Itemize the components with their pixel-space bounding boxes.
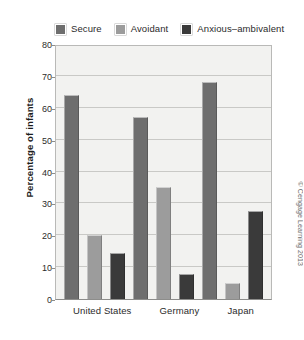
- y-axis-tick-mark: [51, 300, 55, 301]
- legend-label: Anxious–ambivalent: [197, 24, 284, 34]
- bar: [87, 235, 102, 299]
- x-axis-tick-label: Germany: [160, 305, 200, 316]
- legend-label: Avoidant: [131, 24, 169, 34]
- bar: [133, 117, 148, 299]
- y-axis-tick-label: 30: [12, 199, 52, 209]
- y-axis-tick-label: 40: [12, 168, 52, 178]
- chart-figure: SecureAvoidantAnxious–ambivalent Percent…: [0, 0, 303, 340]
- y-axis-tick-label: 0: [12, 295, 52, 305]
- bar-group: [202, 46, 263, 299]
- legend-entry: Secure: [55, 24, 102, 35]
- bar: [248, 211, 263, 299]
- bar: [64, 95, 79, 299]
- y-axis-tick-label: 20: [12, 231, 52, 241]
- y-axis-tick-label: 50: [12, 136, 52, 146]
- chart-legend: SecureAvoidantAnxious–ambivalent: [55, 20, 287, 38]
- y-axis-tick-mark: [51, 268, 55, 269]
- bar: [110, 253, 125, 299]
- legend-label: Secure: [71, 24, 102, 34]
- y-axis-tick-mark: [51, 204, 55, 205]
- y-axis-tick-label: 80: [12, 40, 52, 50]
- legend-swatch-avoidant-icon: [115, 24, 126, 35]
- bar-group: [133, 46, 194, 299]
- legend-entry: Anxious–ambivalent: [181, 24, 284, 35]
- bar: [179, 274, 194, 300]
- bar: [202, 82, 217, 299]
- y-axis-tick-label: 60: [12, 104, 52, 114]
- legend-entry: Avoidant: [115, 24, 169, 35]
- legend-swatch-secure-icon: [55, 24, 66, 35]
- bar: [225, 283, 240, 299]
- x-axis-tick-labels: United StatesGermanyJapan: [55, 305, 272, 316]
- y-axis-tick-mark: [51, 77, 55, 78]
- plot-area: [55, 45, 272, 300]
- y-axis-tick-mark: [51, 45, 55, 46]
- y-axis-tick-label: 70: [12, 72, 52, 82]
- y-axis-tick-mark: [51, 141, 55, 142]
- y-axis-tick-mark: [51, 173, 55, 174]
- y-axis-tick-label: 10: [12, 263, 52, 273]
- bar: [156, 187, 171, 299]
- y-axis-tick-mark: [51, 236, 55, 237]
- x-axis-tick-label: Japan: [228, 305, 254, 316]
- copyright-credit: © Cengage Learning 2013: [297, 182, 304, 282]
- bar-groups: [56, 46, 271, 299]
- legend-swatch-anxious-ambivalent-icon: [181, 24, 192, 35]
- y-axis-tick-mark: [51, 109, 55, 110]
- x-axis-tick-label: United States: [73, 305, 131, 316]
- bar-group: [64, 46, 125, 299]
